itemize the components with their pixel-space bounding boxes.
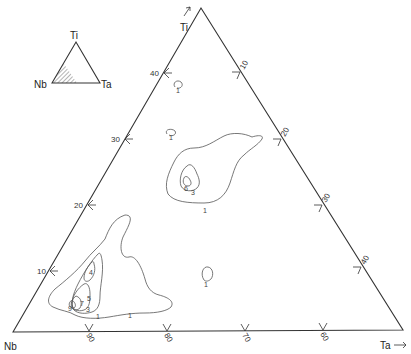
svg-text:10: 10 [37, 267, 46, 276]
svg-text:80: 80 [162, 332, 175, 345]
left-edge-ticks: 40 30 20 10 [37, 68, 172, 276]
svg-text:70: 70 [240, 332, 253, 345]
label-nb: Nb [4, 341, 17, 352]
label-ti: Ti [180, 22, 188, 33]
svg-text:1: 1 [96, 313, 100, 320]
svg-text:9: 9 [68, 305, 72, 312]
ta-axis-label: Ta [380, 340, 406, 351]
svg-text:4: 4 [89, 269, 93, 276]
contour-lower-outer-1 [49, 215, 173, 318]
arrow-up-right-icon [184, 7, 190, 16]
label-ta: Ta [380, 340, 391, 351]
svg-text:30: 30 [111, 135, 120, 144]
svg-text:5: 5 [87, 295, 91, 302]
svg-text:1: 1 [176, 87, 180, 94]
svg-text:40: 40 [150, 69, 159, 78]
inset-hatched-region [52, 64, 77, 83]
inset-label-ti: Ti [70, 30, 78, 41]
svg-text:40: 40 [359, 253, 372, 266]
svg-text:6: 6 [184, 185, 188, 192]
svg-text:20: 20 [74, 201, 83, 210]
inset-diagram: Ti Nb Ta [34, 30, 112, 90]
svg-text:1: 1 [204, 281, 208, 288]
svg-text:1: 1 [203, 207, 207, 214]
svg-text:60: 60 [318, 331, 331, 344]
svg-text:30: 30 [320, 191, 333, 204]
contour-upper-outer-1 [166, 133, 262, 203]
svg-text:1: 1 [128, 312, 132, 319]
contour-small-right [202, 267, 213, 281]
inset-label-ta: Ta [101, 79, 112, 90]
bottom-edge-ticks: 90 80 70 60 [84, 323, 331, 344]
svg-text:1: 1 [169, 134, 173, 141]
ternary-diagram: Ti Nb Ta Ti Nb Ta 40 30 20 10 10 20 30 4… [0, 0, 411, 354]
inset-label-nb: Nb [34, 79, 47, 90]
svg-text:7: 7 [80, 300, 84, 307]
contour-lower-3 [72, 253, 102, 313]
main-triangle [13, 8, 403, 332]
svg-text:3: 3 [191, 189, 195, 196]
svg-text:90: 90 [84, 332, 97, 345]
